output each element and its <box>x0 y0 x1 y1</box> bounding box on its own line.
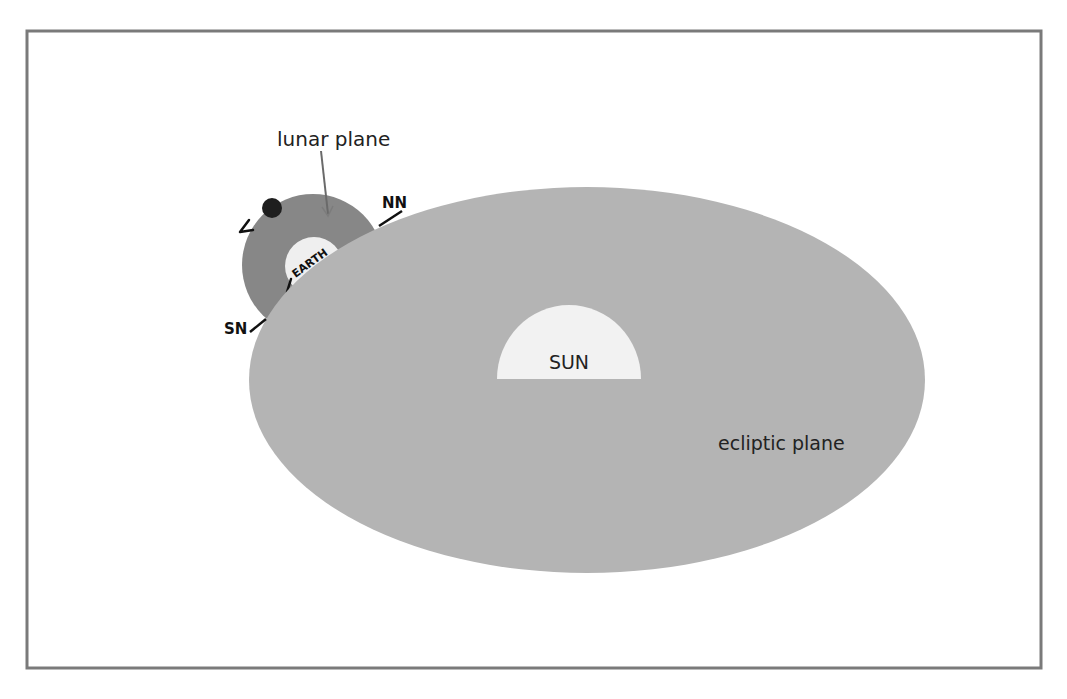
ecliptic-plane-ellipse <box>249 187 925 573</box>
lunar-plane-label: lunar plane <box>277 127 390 151</box>
south-node-label: SN <box>224 320 247 338</box>
sun-label: SUN <box>549 351 589 373</box>
north-node-label: NN <box>382 194 407 212</box>
moon-icon <box>262 198 282 218</box>
ecliptic-plane-label: ecliptic plane <box>718 432 845 454</box>
lunar-nodes-diagram: EARTH SUN ecliptic plane lunar plane NN … <box>0 0 1067 699</box>
